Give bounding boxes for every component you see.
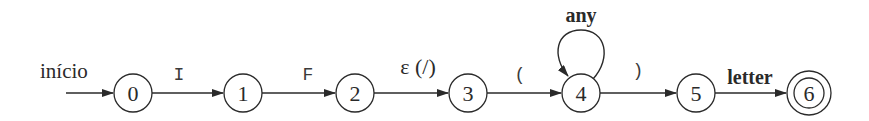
state-label-5: 5 bbox=[691, 81, 702, 106]
transition-label-3-4: ( bbox=[515, 65, 526, 85]
self-loop-4 bbox=[558, 30, 604, 79]
state-label-6: 6 bbox=[804, 81, 815, 106]
start-label: início bbox=[40, 59, 88, 83]
state-1: 1 bbox=[224, 74, 262, 112]
transition-label-0-1: I bbox=[174, 65, 185, 85]
transition-label-4-4: any bbox=[565, 4, 596, 27]
finite-automaton-diagram: início I F ε (/) ( any ) letter 0 1 2 3 … bbox=[0, 0, 869, 121]
transition-label-4-5: ) bbox=[633, 61, 644, 81]
state-label-0: 0 bbox=[128, 81, 139, 106]
state-6-accepting: 6 bbox=[787, 71, 831, 115]
state-label-2: 2 bbox=[350, 81, 361, 106]
state-label-4: 4 bbox=[576, 81, 587, 106]
state-label-3: 3 bbox=[463, 81, 474, 106]
state-label-1: 1 bbox=[238, 81, 249, 106]
transition-label-2-3: ε (/) bbox=[400, 54, 436, 79]
transition-label-1-2: F bbox=[303, 65, 314, 85]
transition-label-5-6: letter bbox=[727, 66, 773, 88]
state-2: 2 bbox=[336, 74, 374, 112]
state-0: 0 bbox=[114, 74, 152, 112]
state-5: 5 bbox=[677, 74, 715, 112]
state-3: 3 bbox=[449, 74, 487, 112]
state-4: 4 bbox=[562, 74, 600, 112]
